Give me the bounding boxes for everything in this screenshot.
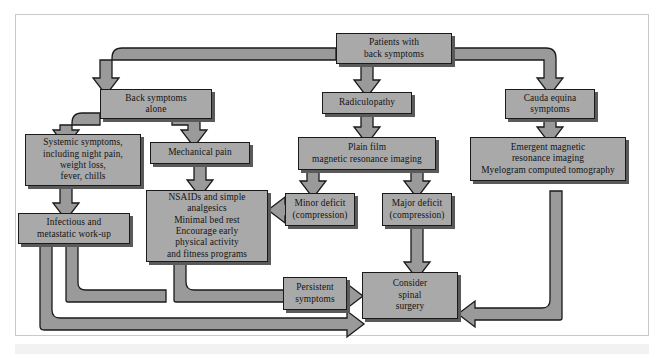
node-minor-deficit[interactable]: Minor deficit (compression) [285,193,355,226]
node-systemic-symptoms-label: Systemic symptoms, including night pain,… [29,137,137,183]
node-radiculopathy-label: Radiculopathy [326,97,408,108]
node-emergent-mri[interactable]: Emergent magnetic resonance imaging Myel… [470,137,626,181]
node-major-deficit[interactable]: Major deficit (compression) [382,193,452,226]
node-patients[interactable]: Patients with back symptoms [336,33,452,64]
node-radiculopathy[interactable]: Radiculopathy [322,92,412,114]
node-plain-film-mri[interactable]: Plain film magnetic resonance imaging [298,137,436,170]
node-nsaids-conservative-care[interactable]: NSAIDs and simple analgesics Minimal bed… [146,190,268,262]
node-cauda-equina-label: Cauda equina symptoms [509,93,591,116]
node-systemic-symptoms[interactable]: Systemic symptoms, including night pain,… [25,134,141,186]
node-consider-spinal-surgery-label: Consider spinal surgery [366,278,454,312]
node-minor-deficit-label: Minor deficit (compression) [289,198,351,221]
node-back-symptoms-alone[interactable]: Back symptoms alone [100,89,212,119]
node-emergent-mri-label: Emergent magnetic resonance imaging Myel… [474,142,622,176]
node-back-symptoms-alone-label: Back symptoms alone [104,93,208,116]
node-nsaids-conservative-care-label: NSAIDs and simple analgesics Minimal bed… [150,192,264,260]
flowchart-canvas: .conn{ fill:#9a9a9a; stroke:#1a1a1a; str… [0,0,666,359]
node-persistent-symptoms[interactable]: Persistent symptoms [283,277,347,310]
node-mechanical-pain[interactable]: Mechanical pain [150,142,250,164]
node-infectious-metastatic-workup-label: Infectious and metastatic work-up [22,217,126,240]
node-consider-spinal-surgery[interactable]: Consider spinal surgery [362,272,458,319]
node-persistent-symptoms-label: Persistent symptoms [287,282,343,305]
node-infectious-metastatic-workup[interactable]: Infectious and metastatic work-up [18,213,130,244]
node-major-deficit-label: Major deficit (compression) [386,198,448,221]
node-mechanical-pain-label: Mechanical pain [154,147,246,158]
node-plain-film-mri-label: Plain film magnetic resonance imaging [302,142,432,165]
node-patients-label: Patients with back symptoms [340,37,448,60]
node-cauda-equina[interactable]: Cauda equina symptoms [505,89,595,119]
